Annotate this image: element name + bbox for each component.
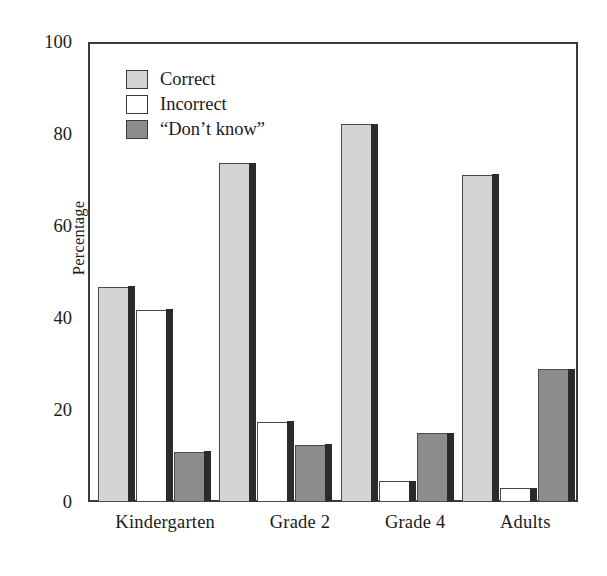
y-tick-label-60: 60: [12, 217, 72, 236]
bar-group-grade-4: [341, 44, 447, 502]
legend-entry-correct: Correct: [126, 70, 265, 89]
bar-group-adults: [462, 44, 568, 502]
bar-grade-2-incorrect: [257, 422, 287, 502]
y-tick-label-100: 100: [12, 33, 72, 52]
bar-grade-2-dontknow: [295, 445, 325, 502]
bar-adults-dontknow: [538, 369, 568, 502]
x-axis-labels: Kindergarten Grade 2 Grade 4 Adults: [88, 512, 578, 533]
x-tick-label-grade-4: Grade 4: [385, 512, 445, 533]
bar-adults-correct: [462, 175, 492, 503]
legend-label-incorrect: Incorrect: [160, 95, 227, 114]
x-tick-label-grade-2: Grade 2: [270, 512, 330, 533]
legend-entry-dontknow: “Don’t know”: [126, 120, 265, 139]
legend-label-correct: Correct: [160, 70, 215, 89]
y-tick-label-40: 40: [12, 309, 72, 328]
bar-adults-incorrect: [500, 488, 530, 502]
bar-grade-4-correct: [341, 124, 371, 502]
legend-swatch-incorrect-icon: [126, 95, 148, 114]
legend-swatch-dontknow-icon: [126, 120, 148, 139]
bar-chart-figure: Percentage 100 80 60 40 20 0: [0, 0, 607, 576]
chart-legend: Correct Incorrect “Don’t know”: [126, 70, 265, 139]
y-tick-label-0: 0: [12, 493, 72, 512]
bar-grade-4-incorrect: [379, 481, 409, 502]
x-tick-label-adults: Adults: [500, 512, 551, 533]
x-tick-label-kindergarten: Kindergarten: [115, 512, 215, 533]
bar-grade-4-dontknow: [417, 433, 447, 502]
y-axis-title: Percentage: [69, 153, 89, 323]
y-tick-label-20: 20: [12, 401, 72, 420]
bar-kindergarten-incorrect: [136, 310, 166, 502]
legend-swatch-correct-icon: [126, 70, 148, 89]
legend-label-dontknow: “Don’t know”: [160, 120, 265, 139]
bar-kindergarten-correct: [98, 287, 128, 502]
y-tick-label-80: 80: [12, 125, 72, 144]
legend-entry-incorrect: Incorrect: [126, 95, 265, 114]
bar-grade-2-correct: [219, 163, 249, 502]
bar-kindergarten-dontknow: [174, 452, 204, 502]
